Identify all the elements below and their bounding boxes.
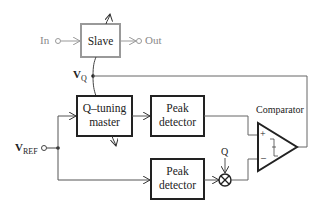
hysteresis-icon [270,139,278,156]
vref-label: VREF [15,141,38,156]
vq-sub: Q [81,74,87,83]
peak-detector-bottom-label: Peak detector [151,164,204,192]
peak-detector-top-label: Peak detector [151,101,204,129]
master-tuning-arrow-icon [112,136,116,146]
comparator-minus: – [261,152,266,163]
comparator-label: Comparator [256,104,304,115]
pd-top-line1: Peak [151,101,204,115]
comparator-plus: + [260,128,266,139]
q-tuning-line1: Q–tuning [77,101,132,115]
vq-main: V [73,68,81,80]
vref-sub: REF [23,147,38,156]
q-label: Q [221,146,228,157]
out-terminal-icon [137,39,142,44]
q-tuning-line2: master [77,115,132,129]
vref-main: V [15,141,23,153]
in-terminal-icon [56,39,61,44]
multiplier-icon [219,174,231,186]
tuning-arrow-icon [106,14,110,24]
vq-label: VQ [73,68,87,83]
vref-terminal-icon [42,146,47,151]
q-tuning-master-label: Q–tuning master [77,101,132,129]
pd-bottom-line1: Peak [151,164,204,178]
in-label: In [40,34,49,46]
pd-top-line2: detector [151,115,204,129]
pd-bottom-line2: detector [151,178,204,192]
slave-label: Slave [81,34,120,48]
out-label: Out [145,34,162,46]
